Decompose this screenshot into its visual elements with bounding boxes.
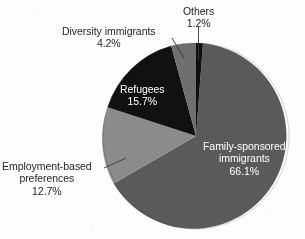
label-family-name-1: Family-sponsored	[203, 140, 286, 152]
label-refugees: Refugees 15.7%	[120, 83, 165, 108]
label-refugees-value: 15.7%	[120, 95, 165, 107]
label-family-sponsored-immigrants: Family-sponsored immigrants 66.1%	[203, 140, 286, 177]
pie-chart-figure: Others 1.2% Diversity immigrants 4.2% Em…	[0, 0, 305, 239]
label-employment-based-preferences: Employment-based preferences 12.7%	[2, 160, 92, 197]
label-others-value: 1.2%	[183, 17, 214, 29]
label-others: Others 1.2%	[183, 5, 214, 30]
label-employment-value: 12.7%	[2, 185, 92, 197]
label-diversity-value: 4.2%	[62, 37, 156, 49]
label-family-name-2: immigrants	[203, 152, 286, 164]
label-diversity-immigrants: Diversity immigrants 4.2%	[62, 25, 156, 50]
label-family-value: 66.1%	[203, 165, 286, 177]
label-employment-name-2: preferences	[2, 172, 92, 184]
label-refugees-name: Refugees	[120, 83, 165, 95]
label-diversity-name: Diversity immigrants	[62, 25, 156, 37]
label-employment-name-1: Employment-based	[2, 160, 92, 172]
label-others-name: Others	[183, 5, 214, 17]
